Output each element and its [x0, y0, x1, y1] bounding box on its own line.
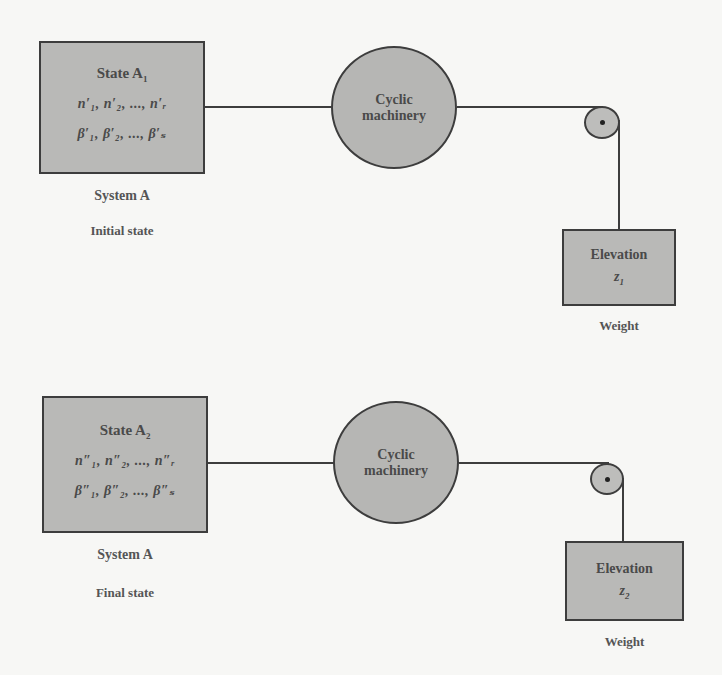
rope-horizontal	[457, 106, 603, 108]
system-a-label: System A	[42, 547, 208, 563]
state-a1-beta-values: β′₁, β′₂, ..., β′ₛ	[41, 125, 203, 142]
system-a-label: System A	[39, 188, 205, 204]
shaft-line-left	[205, 106, 332, 108]
cyclic-machinery-circle: Cyclic machinery	[333, 401, 459, 524]
weight-label: Weight	[565, 634, 684, 650]
weight-box: Elevation z1	[562, 229, 676, 306]
initial-state-label: Initial state	[39, 223, 205, 239]
state-a1-title: State A1	[41, 65, 203, 84]
pulley-axle	[600, 120, 605, 125]
state-a2-beta-values: β″₁, β″₂, ..., β″ₛ	[44, 482, 206, 499]
pulley-axle	[605, 477, 610, 482]
state-a1-n-values: n′₁, n′₂, ..., n′ᵣ	[41, 96, 203, 112]
rope-vertical	[622, 478, 624, 542]
elevation-label: Elevation	[564, 247, 674, 263]
elevation-z2: z2	[567, 583, 682, 601]
cyclic-machinery-label: Cyclic machinery	[362, 92, 426, 124]
cyclic-machinery-circle: Cyclic machinery	[331, 46, 457, 169]
state-a2-n-values: n″₁, n″₂, ..., n″ᵣ	[44, 453, 206, 469]
state-a2-box: State A2 n″₁, n″₂, ..., n″ᵣ β″₁, β″₂, ..…	[42, 396, 208, 533]
elevation-label: Elevation	[567, 561, 682, 577]
shaft-line-left	[208, 462, 334, 464]
rope-horizontal	[459, 462, 609, 464]
final-state-panel: State A2 n″₁, n″₂, ..., n″ᵣ β″₁, β″₂, ..…	[0, 340, 722, 675]
elevation-z1: z1	[564, 269, 674, 287]
cyclic-machinery-label: Cyclic machinery	[364, 447, 428, 479]
pulley-icon	[590, 463, 624, 495]
weight-label: Weight	[562, 318, 676, 334]
initial-state-panel: State A1 n′₁, n′₂, ..., n′ᵣ β′₁, β′₂, ..…	[0, 0, 722, 340]
pulley-icon	[584, 106, 620, 139]
state-a1-box: State A1 n′₁, n′₂, ..., n′ᵣ β′₁, β′₂, ..…	[39, 41, 205, 174]
rope-vertical	[618, 120, 620, 230]
final-state-label: Final state	[42, 585, 208, 601]
state-a2-title: State A2	[44, 422, 206, 441]
weight-box: Elevation z2	[565, 541, 684, 621]
